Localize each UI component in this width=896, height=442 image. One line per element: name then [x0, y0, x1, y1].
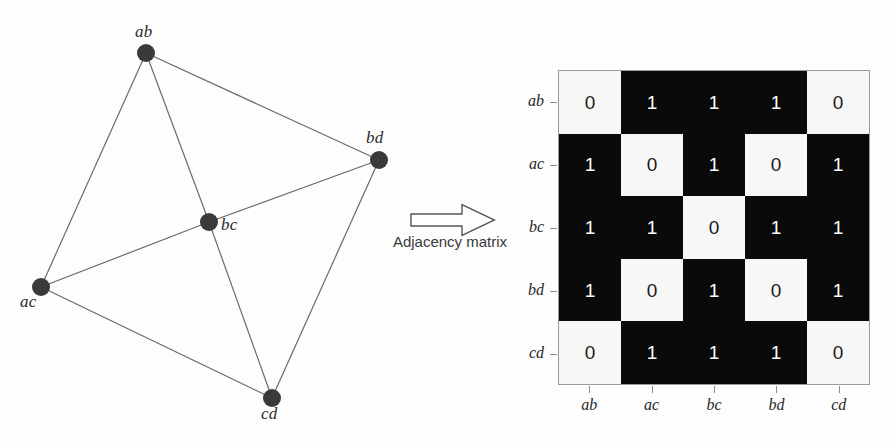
matrix-cell-ac-bc: 1: [683, 134, 745, 197]
matrix-cell-bc-cd: 1: [807, 196, 869, 259]
matrix-row-tick-ab: [550, 102, 557, 103]
graph-node-bc[interactable]: [200, 213, 218, 231]
graph-edge-bd-cd: [272, 160, 379, 398]
matrix-col-label-bd: bd: [745, 396, 807, 414]
matrix-cell-cd-bd: 1: [745, 321, 807, 384]
graph-panel: abbdbcaccd: [0, 0, 430, 442]
matrix-cell-cd-cd: 0: [807, 321, 869, 384]
matrix-row-label-bc: bc: [510, 218, 544, 236]
matrix-col-label-ac: ac: [621, 396, 683, 414]
right-block-arrow-icon: [410, 203, 496, 237]
graph-node-label-bd: bd: [366, 128, 383, 148]
graph-node-label-ab: ab: [135, 22, 152, 42]
matrix-row-label-ab: ab: [510, 92, 544, 110]
matrix-col-tick-bd: [776, 386, 777, 393]
graph-edge-bc-cd: [209, 222, 272, 398]
graph-edge-ab-bc: [146, 53, 209, 222]
graph-node-label-ac: ac: [20, 292, 36, 312]
graph-edge-bc-bd: [209, 160, 379, 222]
graph-node-label-bc: bc: [221, 215, 237, 235]
matrix-cell-ab-bd: 1: [745, 71, 807, 134]
graph-nodes: [32, 44, 388, 407]
matrix-row-label-bd: bd: [510, 281, 544, 299]
figure-graph-to-adjacency-matrix: abbdbcaccd Adjacency matrix 011101010111…: [0, 0, 896, 442]
adjacency-matrix-panel: 0111010101110111010101110 abacbcbdcd aba…: [510, 50, 896, 442]
matrix-cell-ac-cd: 1: [807, 134, 869, 197]
graph-drawing: [0, 0, 430, 442]
matrix-cell-ac-ac: 0: [621, 134, 683, 197]
matrix-row-label-cd: cd: [510, 344, 544, 362]
matrix-col-label-bc: bc: [683, 396, 745, 414]
matrix-cell-bd-bd: 0: [745, 259, 807, 322]
matrix-col-label-ab: ab: [558, 396, 620, 414]
matrix-col-label-cd: cd: [808, 396, 870, 414]
matrix-row-tick-cd: [550, 354, 557, 355]
matrix-col-tick-ac: [652, 386, 653, 393]
matrix-cell-bd-bc: 1: [683, 259, 745, 322]
matrix-col-tick-bc: [714, 386, 715, 393]
graph-edge-ac-cd: [41, 287, 272, 398]
matrix-row-tick-ac: [550, 165, 557, 166]
matrix-cell-cd-bc: 1: [683, 321, 745, 384]
matrix-cell-ac-bd: 0: [745, 134, 807, 197]
transformation-arrow-panel: Adjacency matrix: [370, 195, 530, 275]
matrix-cell-bd-cd: 1: [807, 259, 869, 322]
matrix-cell-bc-ac: 1: [621, 196, 683, 259]
matrix-cell-bd-ac: 0: [621, 259, 683, 322]
matrix-cell-ab-bc: 1: [683, 71, 745, 134]
matrix-row-tick-bc: [550, 228, 557, 229]
graph-node-bd[interactable]: [370, 151, 388, 169]
matrix-cell-bc-ab: 1: [559, 196, 621, 259]
matrix-cell-bc-bc: 0: [683, 196, 745, 259]
matrix-cell-ab-ac: 1: [621, 71, 683, 134]
matrix-row-label-ac: ac: [510, 155, 544, 173]
matrix-cell-ab-cd: 0: [807, 71, 869, 134]
matrix-cell-bd-ab: 1: [559, 259, 621, 322]
matrix-cell-ab-ab: 0: [559, 71, 621, 134]
matrix-cell-ac-ab: 1: [559, 134, 621, 197]
matrix-cell-cd-ac: 1: [621, 321, 683, 384]
matrix-col-tick-ab: [589, 386, 590, 393]
arrow-caption-label: Adjacency matrix: [370, 233, 530, 250]
graph-node-ab[interactable]: [137, 44, 155, 62]
matrix-col-tick-cd: [839, 386, 840, 393]
graph-node-label-cd: cd: [261, 404, 277, 424]
adjacency-matrix-grid: 0111010101110111010101110: [558, 70, 870, 385]
matrix-cell-cd-ab: 0: [559, 321, 621, 384]
matrix-row-tick-bd: [550, 291, 557, 292]
graph-edge-ab-bd: [146, 53, 379, 160]
matrix-cell-bc-bd: 1: [745, 196, 807, 259]
